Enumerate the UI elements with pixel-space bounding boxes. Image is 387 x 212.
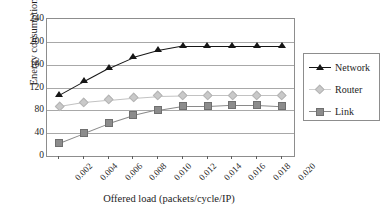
y-tick-label: 80 [22,104,44,114]
chart-legend: NetworkRouterLink [303,53,380,121]
legend-marker-network [316,64,324,70]
y-axis-tick-labels: 04080120160200240 [20,0,44,212]
legend-item-network[interactable]: Network [304,58,379,78]
data-point-router [276,90,286,100]
gridline [47,88,294,89]
x-tick-label: 0.004 [98,161,119,182]
legend-label: Router [335,83,362,96]
x-tick-mark [108,156,109,159]
data-point-link [105,119,113,127]
data-point-network [129,53,137,59]
data-point-network [105,64,113,70]
x-tick-label: 0.002 [73,161,94,182]
x-tick-mark [182,156,183,159]
data-point-link [55,139,63,147]
data-point-network [278,42,286,48]
data-point-link [228,101,236,109]
y-tick-label: 0 [22,150,44,160]
data-point-network [253,42,261,48]
data-point-router [128,93,138,103]
x-tick-label: 0.018 [271,161,292,182]
legend-label: Network [335,61,370,74]
legend-item-link[interactable]: Link [304,102,379,122]
x-tick-mark [132,156,133,159]
data-point-network [179,42,187,48]
data-point-router [252,90,262,100]
data-point-link [204,102,212,110]
x-tick-mark [58,156,59,159]
legend-marker-link [316,108,324,116]
x-tick-label: 0.012 [197,161,218,182]
legend-marker-router [315,85,325,95]
legend-label: Link [335,105,354,118]
gridline [47,110,294,111]
data-point-link [129,111,137,119]
y-tick-label: 40 [22,127,44,137]
data-point-router [153,91,163,101]
y-tick-label: 240 [22,13,44,23]
data-point-network [55,91,63,97]
x-tick-label: 0.006 [123,161,144,182]
data-point-network [154,46,162,52]
energy-consumption-chart: Energy consumption (µJ) 0408012016020024… [0,0,387,212]
data-point-network [80,77,88,83]
data-point-link [278,102,286,110]
gridline [47,65,294,66]
data-point-link [80,129,88,137]
y-tick-label: 160 [22,59,44,69]
plot-area [46,18,295,157]
x-tick-mark [281,156,282,159]
data-point-router [178,90,188,100]
x-axis-title: Offered load (packets/cycle/IP) [34,192,304,205]
x-tick-mark [157,156,158,159]
y-tick-label: 120 [22,82,44,92]
data-point-router [227,90,237,100]
data-point-network [203,42,211,48]
x-tick-mark [231,156,232,159]
x-tick-label: 0.014 [221,161,242,182]
data-point-router [79,97,89,107]
data-point-router [104,95,114,105]
legend-item-router[interactable]: Router [304,80,379,100]
y-tick-label: 200 [22,36,44,46]
data-point-router [202,90,212,100]
data-point-network [228,42,236,48]
x-tick-label: 0.010 [172,161,193,182]
x-tick-label: 0.016 [246,161,267,182]
x-tick-mark [83,156,84,159]
x-tick-mark [207,156,208,159]
x-tick-mark [256,156,257,159]
x-tick-label: 0.008 [147,161,168,182]
data-point-link [154,106,162,114]
data-point-link [253,101,261,109]
data-point-link [179,102,187,110]
x-tick-label: 0.020 [296,161,317,182]
